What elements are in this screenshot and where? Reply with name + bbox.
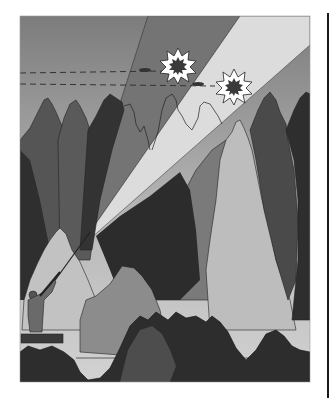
hunter-stand: [21, 334, 63, 343]
page-divider-rule: [327, 13, 329, 398]
lower-bird: [192, 82, 204, 86]
hunting-illustration: [0, 0, 332, 398]
upper-bird: [139, 68, 151, 72]
